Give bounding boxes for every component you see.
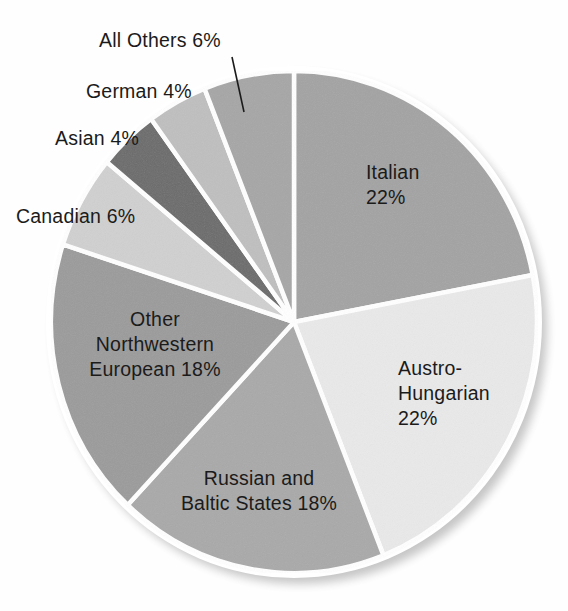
slice-label-line-1: Italian: [366, 160, 419, 185]
slice-label-line-2: Baltic States 18%: [181, 491, 337, 516]
slice-label-russian-baltic: Russian and Baltic States 18%: [181, 466, 337, 516]
slice-label-line-3: European 18%: [89, 357, 220, 382]
slice-label-all-others: All Others 6%: [99, 28, 221, 53]
slice-label-line-3: 22%: [398, 406, 490, 431]
slice-label-text: German 4%: [86, 80, 192, 102]
slice-label-line-2: Hungarian: [398, 381, 490, 406]
slice-label-line-1: Russian and: [181, 466, 337, 491]
slice-label-line-2: Northwestern: [89, 332, 220, 357]
slice-label-italian: Italian 22%: [366, 160, 419, 210]
slice-label-asian: Asian 4%: [55, 126, 139, 151]
slice-label-line-1: Other: [89, 307, 220, 332]
slice-label-german: German 4%: [86, 79, 192, 104]
slice-label-text: Canadian 6%: [16, 205, 135, 227]
slice-label-line-2: 22%: [366, 185, 419, 210]
slice-label-text: Asian 4%: [55, 127, 139, 149]
pie-chart-figure: All Others 6% German 4% Asian 4% Canadia…: [0, 0, 568, 611]
slice-label-austro-hungarian: Austro- Hungarian 22%: [398, 356, 490, 431]
slice-label-canadian: Canadian 6%: [16, 204, 135, 229]
slice-label-other-northwestern-european: Other Northwestern European 18%: [89, 307, 220, 382]
slice-label-text: All Others 6%: [99, 29, 221, 51]
slice-label-line-1: Austro-: [398, 356, 490, 381]
